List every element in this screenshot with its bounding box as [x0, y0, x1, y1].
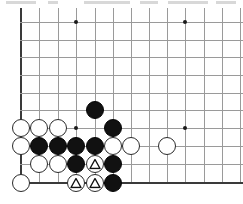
stone-white-c8r7[interactable] [158, 137, 176, 155]
grid-line-vertical-10 [204, 8, 205, 183]
grid-line-vertical-11 [222, 8, 223, 183]
star-point-3 [183, 126, 187, 130]
stone-white-c1r8[interactable] [30, 155, 48, 173]
grid-line-horizontal-0 [20, 22, 243, 23]
stone-white-c0r6[interactable] [12, 119, 30, 137]
stone-white-c4r8[interactable] [86, 155, 104, 173]
stone-black-c4r5[interactable] [86, 101, 104, 119]
stone-black-c2r7[interactable] [49, 137, 67, 155]
grid-line-vertical-12 [240, 8, 241, 183]
stone-black-c3r8[interactable] [67, 155, 85, 173]
grid-line-vertical-8 [167, 8, 168, 183]
stone-white-c3r9[interactable] [67, 174, 85, 192]
stone-white-c2r6[interactable] [49, 119, 67, 137]
grid-line-horizontal-3 [20, 75, 243, 76]
stone-black-c1r7[interactable] [30, 137, 48, 155]
stone-white-c2r8[interactable] [49, 155, 67, 173]
stone-black-c3r7[interactable] [67, 137, 85, 155]
grid-line-horizontal-4 [20, 93, 243, 94]
stone-white-c0r7[interactable] [12, 137, 30, 155]
stone-black-c5r9[interactable] [104, 174, 122, 192]
image-top-artifact [0, 0, 243, 7]
stone-black-c5r8[interactable] [104, 155, 122, 173]
grid-line-horizontal-5 [20, 110, 243, 111]
star-point-1 [183, 20, 187, 24]
grid-line-horizontal-2 [20, 57, 243, 58]
stone-black-c5r6[interactable] [104, 119, 122, 137]
stone-white-c5r7[interactable] [104, 137, 122, 155]
grid-line-horizontal-9 [20, 182, 243, 184]
grid-line-vertical-9 [185, 8, 186, 183]
stone-white-c1r6[interactable] [30, 119, 48, 137]
star-point-0 [74, 20, 78, 24]
stone-white-c4r9[interactable] [86, 174, 104, 192]
stone-white-c6r7[interactable] [122, 137, 140, 155]
grid-line-vertical-0 [20, 8, 22, 184]
go-board[interactable] [0, 0, 243, 204]
grid-line-horizontal-1 [20, 40, 243, 41]
grid-line-vertical-6 [131, 8, 132, 183]
stone-white-c0r9[interactable] [12, 174, 30, 192]
star-point-2 [74, 126, 78, 130]
grid-line-vertical-7 [149, 8, 150, 183]
stone-black-c4r7[interactable] [86, 137, 104, 155]
